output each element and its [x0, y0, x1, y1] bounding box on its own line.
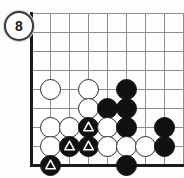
- stone-white[interactable]: [135, 136, 156, 157]
- stone-white[interactable]: [97, 117, 118, 138]
- stone-white[interactable]: [97, 136, 118, 157]
- grid-line-horizontal: [31, 70, 184, 71]
- stone-white[interactable]: [78, 98, 99, 119]
- grid-line-horizontal: [31, 13, 184, 14]
- stone-white[interactable]: [40, 136, 61, 157]
- stone-black[interactable]: [154, 136, 175, 157]
- stone-white[interactable]: [40, 117, 61, 138]
- stone-black[interactable]: [59, 136, 80, 157]
- stone-black[interactable]: [116, 79, 137, 100]
- stone-white[interactable]: [116, 136, 137, 157]
- stone-black[interactable]: [97, 98, 118, 119]
- stone-white[interactable]: [59, 117, 80, 138]
- stone-white[interactable]: [40, 79, 61, 100]
- diagram-root: 8: [0, 0, 184, 178]
- triangle-mark-icon: [60, 137, 79, 156]
- stone-black[interactable]: [116, 98, 137, 119]
- stone-white[interactable]: [78, 79, 99, 100]
- triangle-mark-icon: [79, 118, 98, 137]
- move-number-text: 8: [15, 18, 23, 34]
- grid-line-horizontal: [31, 51, 184, 52]
- stone-black[interactable]: [116, 117, 137, 138]
- stone-black[interactable]: [78, 136, 99, 157]
- grid-line-horizontal: [31, 32, 184, 33]
- stone-black[interactable]: [154, 117, 175, 138]
- stone-black[interactable]: [78, 117, 99, 138]
- stone-black[interactable]: [40, 155, 61, 176]
- triangle-mark-icon: [41, 156, 60, 175]
- triangle-mark-icon: [79, 137, 98, 156]
- move-number-badge: 8: [4, 11, 34, 41]
- stone-black[interactable]: [116, 155, 137, 176]
